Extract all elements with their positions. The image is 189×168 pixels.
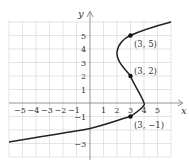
svg-text:5: 5 [81, 32, 86, 41]
y-axis-label: y [77, 8, 84, 19]
point-3-5 [128, 33, 132, 37]
graph: x y −5 −4 −3 −2 −1 1 2 3 4 5 5 4 3 2 1 −… [0, 0, 189, 168]
svg-text:−2: −2 [55, 106, 67, 115]
svg-text:2: 2 [81, 72, 86, 81]
svg-text:5: 5 [155, 106, 160, 115]
svg-text:−3: −3 [74, 140, 86, 149]
svg-text:1: 1 [101, 106, 106, 115]
svg-text:−3: −3 [41, 106, 53, 115]
annotation-3-5: (3, 5) [134, 39, 157, 49]
svg-text:4: 4 [81, 45, 86, 54]
svg-text:3: 3 [128, 106, 133, 115]
svg-text:1: 1 [81, 86, 86, 95]
annotation-3-2: (3, 2) [134, 66, 157, 76]
point-3-2 [128, 74, 132, 78]
annotation-3-m1: (3, −1) [134, 120, 164, 130]
svg-text:2: 2 [114, 106, 119, 115]
point-3-m1 [128, 114, 132, 118]
svg-text:−4: −4 [28, 106, 40, 115]
svg-text:−5: −5 [14, 106, 26, 115]
svg-text:3: 3 [81, 59, 86, 68]
x-axis-label: x [181, 105, 187, 116]
svg-text:−1: −1 [74, 113, 86, 122]
